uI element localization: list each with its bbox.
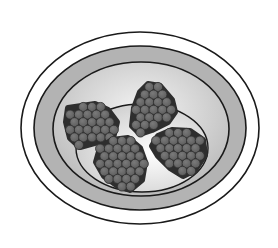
berry bbox=[136, 128, 145, 137]
berry bbox=[87, 133, 96, 142]
berry bbox=[74, 140, 83, 149]
berry bbox=[149, 120, 158, 129]
berry bbox=[96, 133, 105, 142]
berry bbox=[117, 182, 126, 191]
berry bbox=[126, 182, 135, 191]
berry bbox=[178, 166, 187, 175]
berry bbox=[165, 159, 174, 168]
berry bbox=[187, 166, 196, 175]
bowl-illustration bbox=[0, 0, 278, 248]
berry bbox=[162, 113, 171, 122]
berry bbox=[104, 174, 113, 183]
